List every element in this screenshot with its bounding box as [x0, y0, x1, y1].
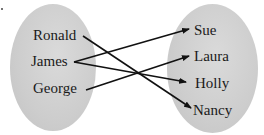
- mapping-diagram: Ronald James George Sue Laura Holly Nanc…: [0, 0, 264, 135]
- domain-label-george: George: [33, 81, 77, 96]
- range-label-sue: Sue: [194, 23, 217, 38]
- arrow-ronald-to-nancy: [83, 36, 191, 108]
- arrow-george-to-laura: [86, 56, 189, 90]
- range-label-laura: Laura: [194, 49, 229, 64]
- arrow-james-to-sue: [74, 29, 189, 62]
- domain-label-james: James: [31, 54, 68, 69]
- domain-label-ronald: Ronald: [33, 28, 76, 43]
- range-label-holly: Holly: [195, 76, 229, 91]
- arrow-james-to-holly: [74, 62, 186, 82]
- range-label-nancy: Nancy: [193, 103, 232, 118]
